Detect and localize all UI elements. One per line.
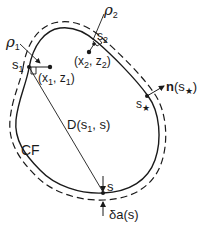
point-s xyxy=(101,191,105,195)
label-x2z2: (x2, z2) xyxy=(74,55,111,67)
contour-diagram: ρ1 ρ2 s1 (x1, z1) s2 (x2, z2) s★ n(s★) D… xyxy=(0,0,206,225)
center-x1z1 xyxy=(48,65,52,69)
label-rho2: ρ2 xyxy=(104,2,118,18)
label-delta-a: δa(s) xyxy=(109,208,139,221)
label-s-star: s★ xyxy=(136,98,150,110)
label-normal-vector: n(s★) xyxy=(166,80,197,93)
label-rho1: ρ1 xyxy=(6,34,20,50)
label-s: s xyxy=(107,180,114,193)
normal-s2 xyxy=(89,44,94,52)
label-x1z1: (x1, z1) xyxy=(38,72,75,84)
label-contour-cf: CF xyxy=(21,143,40,157)
label-s1: s1 xyxy=(12,58,24,71)
right-angle-s1 xyxy=(31,67,36,74)
label-s2: s2 xyxy=(97,30,108,42)
label-distance: D(s1, s) xyxy=(67,118,110,131)
